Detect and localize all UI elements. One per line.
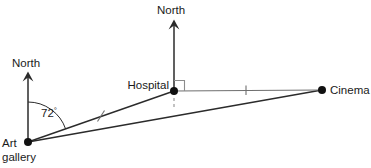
label-cinema: Cinema — [330, 84, 370, 96]
segment-hospital-to-cinema — [174, 90, 322, 91]
label-hospital: Hospital — [127, 79, 169, 91]
label-art-gallery-line-2: gallery — [2, 151, 36, 163]
label-north-art-gallery: North — [12, 57, 40, 69]
point-art-gallery — [24, 138, 32, 146]
label-north-hospital: North — [157, 4, 185, 16]
degree-symbol: ° — [54, 106, 57, 115]
diagram-canvas: North North Hospital Cinema Art gallery … — [0, 0, 371, 168]
label-art-gallery-line-1: Art — [2, 137, 18, 149]
label-angle-72-degrees: 72° — [41, 106, 57, 120]
point-cinema — [318, 86, 326, 94]
angle-value: 72 — [41, 107, 54, 119]
point-hospital — [170, 87, 178, 95]
bearings-diagram: North North Hospital Cinema Art gallery … — [0, 0, 371, 168]
segment-art-gallery-to-cinema — [28, 90, 322, 142]
